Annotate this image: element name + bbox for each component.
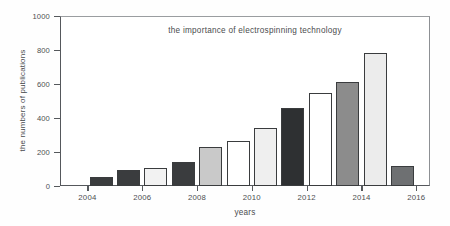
chart-title: the importance of electrospinning techno… [135,26,375,35]
x-axis-tick [142,186,143,191]
x-axis-tick [361,186,362,191]
y-axis-tick-label: 0 [10,182,50,191]
y-axis-tick [54,118,60,119]
x-axis-tick-label: 2016 [396,193,436,202]
x-axis-tick-label: 2006 [122,193,162,202]
y-axis-tick [54,16,60,17]
y-axis-tick [54,152,60,153]
x-axis-title: years [205,208,285,217]
x-axis-tick-label: 2014 [341,193,381,202]
x-axis-tick [307,186,308,191]
y-axis-tick-label: 400 [10,114,50,123]
x-axis-tick [197,186,198,191]
y-axis-title: the numbers of publications [18,31,27,171]
x-axis-tick-label: 2008 [177,193,217,202]
y-axis-tick [54,50,60,51]
y-axis-tick-label: 600 [10,80,50,89]
x-axis-tick-label: 2004 [67,193,107,202]
x-axis-tick [87,186,88,191]
y-axis-tick [54,84,60,85]
y-axis-tick-label: 800 [10,46,50,55]
x-axis-tick-label: 2010 [232,193,272,202]
x-axis-tick [416,186,417,191]
x-axis-tick [252,186,253,191]
y-axis-tick-label: 1000 [10,12,50,21]
y-axis-tick [54,186,60,187]
chart-figure: 0200400600800100020042006200820102012201… [0,0,450,226]
x-axis-tick-label: 2012 [287,193,327,202]
y-axis-tick-label: 200 [10,148,50,157]
